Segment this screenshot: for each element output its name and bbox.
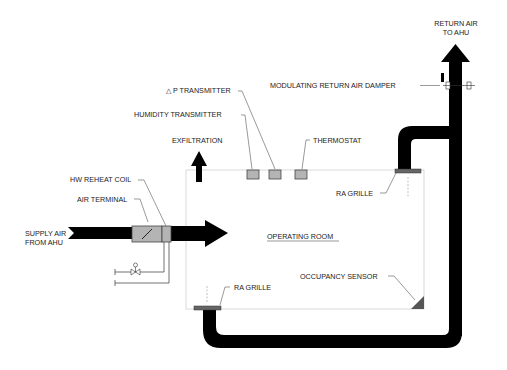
damper-actuator-icon [441, 73, 444, 82]
supply-air-label-2: FROM AHU [25, 238, 63, 247]
thermostat [295, 170, 307, 179]
room-label: OPERATING ROOM [267, 232, 333, 241]
exfiltration-label: EXFILTRATION [172, 136, 222, 145]
return-air-label-2: TO AHU [443, 28, 470, 37]
exfiltration-arrow-icon [191, 151, 207, 182]
dp-transmitter-label: △ P TRANSMITTER [166, 86, 231, 95]
supply-air-label: SUPPLY AIR [25, 229, 66, 238]
air-terminal-label: AIR TERMINAL [77, 195, 127, 204]
reheat-coil-piping [115, 242, 169, 286]
dp-transmitter [269, 170, 281, 179]
hw-reheat-coil [162, 226, 171, 242]
damper-label: MODULATING RETURN AIR DAMPER [270, 81, 396, 90]
return-air-label: RETURN AIR [434, 19, 478, 28]
ra-grille-bottom [194, 306, 221, 310]
humidity-transmitter [247, 170, 259, 179]
air-terminal-unit [132, 226, 162, 242]
hvac-schematic: OPERATING ROOM [0, 0, 507, 370]
ra-grille-top-label: RA GRILLE [336, 189, 373, 198]
occupancy-sensor-label: OCCUPANCY SENSOR [300, 272, 378, 281]
humidity-transmitter-label: HUMIDITY TRANSMITTER [134, 110, 222, 119]
ra-grille-bottom-label: RA GRILLE [234, 283, 271, 292]
ra-grille-top [395, 169, 421, 173]
thermostat-label: THERMOSTAT [313, 136, 362, 145]
hw-reheat-coil-label: HW REHEAT COIL [70, 175, 131, 184]
control-valve-icon [131, 263, 140, 275]
